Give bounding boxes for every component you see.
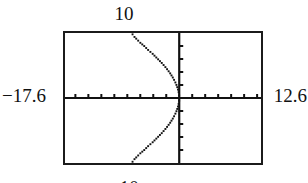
curve-pixel — [134, 158, 136, 160]
curve-pixel — [149, 51, 151, 53]
curve-pixel — [176, 86, 178, 88]
curve-pixel — [137, 155, 139, 157]
curve-pixel — [157, 58, 159, 60]
curve-pixel — [178, 97, 180, 99]
curve-pixel — [164, 128, 166, 130]
curve-pixel — [164, 66, 166, 68]
curve-pixel — [155, 57, 157, 59]
curve-pixel — [161, 62, 163, 64]
curve-pixel — [159, 134, 161, 136]
window-ymax-label: 10 — [0, 4, 308, 23]
curve-pixel — [173, 79, 175, 81]
curve-pixel — [174, 82, 176, 84]
window-xmax-label: 12.6 — [274, 86, 307, 105]
curve-pixel — [132, 33, 134, 35]
curve-pixel — [159, 60, 161, 62]
curve-pixel — [175, 84, 177, 86]
curve-pixel — [135, 38, 137, 40]
curve-pixel — [137, 40, 139, 42]
curve-pixel — [135, 156, 137, 158]
curve-pixel — [166, 126, 168, 128]
curve-pixel — [154, 55, 156, 57]
curve-pixel — [176, 108, 178, 110]
curve-pixel — [141, 43, 143, 45]
curve-pixel — [149, 143, 151, 145]
curve-pixel — [166, 68, 168, 70]
curve-pixel — [178, 91, 180, 93]
curve-pixel — [161, 132, 163, 134]
plot-viewport — [63, 31, 263, 165]
curve-pixel — [172, 77, 174, 79]
curve-pixel — [145, 147, 147, 149]
curve-pixel — [147, 49, 149, 51]
curve-pixel — [178, 103, 180, 105]
curve-pixel — [177, 89, 179, 91]
curve-pixel — [175, 110, 177, 112]
curve-pixel — [163, 64, 165, 66]
curve-pixel — [157, 136, 159, 138]
curve-pixel — [178, 100, 180, 102]
curve-pixel — [152, 141, 154, 143]
curve-pixel — [174, 113, 176, 115]
curve-pixel — [132, 161, 134, 163]
graphing-calculator-figure: 10 −17.6 12.6 −10 — [0, 0, 308, 183]
curve-pixel — [168, 70, 170, 72]
curve-pixel — [155, 138, 157, 140]
curve-pixel — [139, 152, 141, 154]
curve-pixel — [147, 145, 149, 147]
curve-pixel — [177, 106, 179, 108]
curve-pixel — [143, 149, 145, 151]
curve-pixel — [173, 115, 175, 117]
curve-pixel — [171, 74, 173, 76]
curve-pixel — [168, 124, 170, 126]
curve-pixel — [169, 72, 171, 74]
curve-pixel — [172, 118, 174, 120]
curve-pixel — [143, 45, 145, 47]
curve-pixel — [145, 47, 147, 49]
window-xmin-label: −17.6 — [2, 86, 46, 105]
curve-pixel — [152, 53, 154, 55]
curve-pixel — [169, 122, 171, 124]
curve-pixel — [139, 42, 141, 44]
curve-pixel — [178, 95, 180, 97]
curve-pixel — [154, 139, 156, 141]
curve-pixel — [163, 130, 165, 132]
curve-pixel — [141, 151, 143, 153]
curve-pixel — [134, 36, 136, 38]
curve-pixel — [171, 120, 173, 122]
window-ymin-label: −10 — [0, 178, 308, 183]
plot-canvas — [65, 33, 261, 163]
